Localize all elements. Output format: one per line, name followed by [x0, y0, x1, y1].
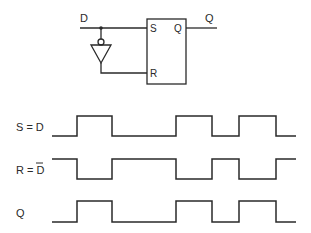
- pin-q-label: Q: [174, 23, 182, 34]
- circuit: D S Q R Q: [80, 12, 217, 84]
- inverter-icon: [91, 39, 111, 63]
- timing-labels: S = D R = D Q: [16, 121, 44, 219]
- output-label-q: Q: [205, 12, 214, 24]
- waveform-s: [52, 116, 296, 136]
- waveforms: [52, 116, 296, 222]
- pin-r-label: R: [150, 68, 157, 79]
- input-label-d: D: [80, 12, 88, 24]
- r-input-wire: [101, 63, 147, 73]
- signal-label-r: R = D: [16, 163, 44, 176]
- waveform-q: [52, 201, 296, 222]
- svg-text:R = D: R = D: [16, 164, 44, 176]
- signal-label-r-prefix: R =: [16, 164, 36, 176]
- signal-label-q: Q: [16, 207, 25, 219]
- pin-s-label: S: [150, 23, 157, 34]
- signal-label-s: S = D: [16, 121, 44, 133]
- waveform-r: [52, 159, 296, 179]
- sr-latch-d-diagram: D S Q R Q S = D R = D Q: [0, 0, 311, 233]
- signal-label-r-barred: D: [36, 164, 44, 176]
